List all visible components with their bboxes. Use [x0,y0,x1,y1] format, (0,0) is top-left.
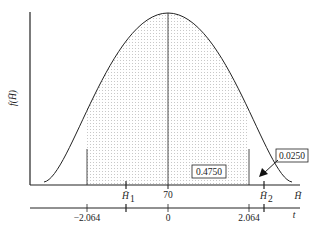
h1-label: H̄ [121,191,130,201]
tail-arrow-icon [259,168,268,177]
distribution-diagram: f(H̄) H̄ 1 70 H̄ 2 H̄ −2.064 0 2.064 t 0… [0,0,320,232]
pos-crit-label: 2.064 [238,213,260,223]
h2-label: H̄ [259,191,268,201]
tail-area-label: 0.0250 [279,151,305,161]
t-axis-var: t [293,210,296,220]
h1-subscript: 1 [130,194,135,204]
neg-crit-label: −2.064 [74,213,101,223]
center-area-label: 0.4750 [196,167,222,177]
zero-label: 0 [166,213,171,223]
h2-subscript: 2 [268,194,273,204]
y-axis-label: f(H̄) [8,90,19,106]
h-axis-var: H̄ [294,191,303,201]
mean-label: 70 [163,190,173,200]
tail-arrow-line [264,160,278,173]
